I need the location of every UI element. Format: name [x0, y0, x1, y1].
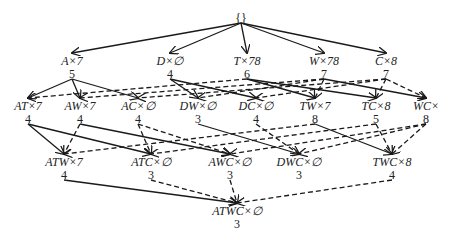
- node-label: TW×7: [300, 99, 332, 113]
- edge-w-to-wc: [324, 79, 426, 98]
- node-twc: TWC×84: [373, 155, 412, 182]
- edge-root-to-c: [241, 23, 386, 53]
- node-dwc: DWC×∅3: [276, 155, 323, 182]
- edge-aw-to-awc: [80, 124, 230, 154]
- node-c: C×87: [375, 54, 397, 81]
- node-aw: AW×74: [64, 99, 97, 126]
- edge-c-to-wc: [386, 79, 426, 98]
- node-label: ATW×7: [44, 155, 84, 169]
- node-label: DC×∅: [238, 99, 275, 113]
- node-count: 8: [312, 112, 318, 126]
- node-count: 4: [25, 112, 31, 126]
- node-count: 3: [195, 112, 201, 126]
- edge-wc-to-dwc: [299, 124, 426, 154]
- node-label: AC×∅: [120, 99, 155, 113]
- node-count: 8: [423, 112, 429, 126]
- edge-atw-to-atwc: [64, 180, 237, 203]
- edge-a-to-aw: [72, 79, 80, 98]
- edge-ac-to-atc: [138, 124, 151, 154]
- node-label: A×7: [60, 54, 83, 68]
- node-count: 4: [167, 67, 173, 81]
- edge-twc-to-atwc: [237, 180, 392, 203]
- node-count: 7: [321, 67, 327, 81]
- node-wc: WC×8: [413, 99, 439, 126]
- node-atwc: ATWC×∅3: [211, 204, 263, 231]
- root-node-label: {}: [235, 11, 247, 25]
- edge-aw-to-atw: [64, 124, 80, 154]
- node-dc: DC×∅4: [238, 99, 275, 126]
- node-tw: TW×78: [300, 99, 332, 126]
- node-t: T×786: [234, 54, 261, 81]
- edge-a-to-ac: [72, 79, 138, 98]
- node-count: 4: [77, 112, 83, 126]
- node-label: C×8: [375, 54, 397, 68]
- node-count: 3: [234, 217, 240, 231]
- edge-atc-to-atwc: [151, 180, 237, 203]
- node-count: 3: [296, 168, 302, 182]
- node-count: 3: [227, 168, 233, 182]
- node-label: D×∅: [156, 54, 185, 68]
- node-ac: AC×∅4: [120, 99, 155, 126]
- node-label: ATC×∅: [130, 155, 172, 169]
- node-label: WC×: [413, 99, 439, 113]
- edge-w-to-aw: [80, 79, 324, 98]
- node-label: AT×7: [13, 99, 43, 113]
- node-label: W×78: [309, 54, 339, 68]
- node-tc: TC×85: [362, 99, 391, 126]
- edge-awc-to-atwc: [230, 180, 237, 203]
- node-d: D×∅4: [156, 54, 185, 81]
- node-label: DWC×∅: [276, 155, 323, 169]
- node-label: T×78: [234, 54, 261, 68]
- node-w: W×787: [309, 54, 339, 81]
- node-label: TC×8: [362, 99, 391, 113]
- node-count: 4: [253, 112, 259, 126]
- edge-root-to-d: [170, 23, 241, 53]
- node-dw: DW×∅3: [179, 99, 218, 126]
- node-label: TWC×8: [373, 155, 412, 169]
- edge-tc-to-twc: [376, 124, 392, 154]
- node-count: 4: [389, 168, 395, 182]
- edge-root-to-a: [72, 23, 241, 53]
- edge-dw-to-dwc: [198, 124, 299, 154]
- node-label: AW×7: [64, 99, 97, 113]
- node-count: 7: [383, 67, 389, 81]
- node-atw: ATW×74: [44, 155, 84, 182]
- node-at: AT×74: [13, 99, 43, 126]
- node-count: 5: [69, 67, 75, 81]
- node-count: 3: [148, 168, 154, 182]
- node-atc: ATC×∅3: [130, 155, 172, 182]
- node-label: AWC×∅: [208, 155, 253, 169]
- node-count: 6: [244, 67, 250, 81]
- edge-root-to-t: [241, 23, 247, 53]
- edge-c-to-dc: [256, 79, 386, 98]
- node-count: 5: [373, 112, 379, 126]
- edge-a-to-at: [28, 79, 72, 98]
- node-count: 4: [135, 112, 141, 126]
- node-count: 4: [61, 168, 67, 182]
- node-label: DW×∅: [179, 99, 218, 113]
- node-label: ATWC×∅: [211, 204, 263, 218]
- node-awc: AWC×∅3: [208, 155, 253, 182]
- lattice-diagram: A×75D×∅4T×786W×787C×87AT×74AW×74AC×∅4DW×…: [0, 0, 452, 246]
- node-a: A×75: [60, 54, 83, 81]
